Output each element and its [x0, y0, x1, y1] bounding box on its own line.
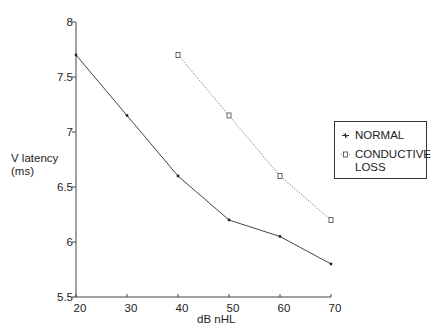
star-marker-icon [330, 263, 333, 266]
legend-label-conductive-loss: CONDUCTIVE LOSS [355, 148, 431, 174]
y-tick-label: 5.5 [57, 291, 73, 303]
square-marker-icon [341, 148, 355, 161]
y-axis-title: V latency (ms) [11, 152, 58, 178]
y-tick-label: 7 [67, 126, 73, 138]
x-tick-label: 40 [176, 302, 189, 314]
x-tick-label: 60 [278, 302, 291, 314]
y-tick-label: 7.5 [57, 71, 73, 83]
series-group [75, 53, 333, 266]
star-marker-icon [228, 219, 231, 222]
y-tick-label: 8 [67, 16, 73, 28]
series-line-normal [76, 55, 331, 264]
star-marker-icon [279, 235, 282, 238]
x-tick-label: 70 [329, 302, 342, 314]
x-axis-title: dB nHL [197, 313, 235, 326]
star-marker-icon [341, 129, 355, 142]
legend-item-normal: NORMAL [341, 129, 404, 142]
star-marker-icon [126, 114, 129, 117]
y-tick-label: 6.5 [57, 181, 73, 193]
square-marker-icon [329, 218, 333, 223]
legend-label-normal: NORMAL [355, 129, 404, 142]
x-tick-label: 20 [74, 302, 87, 314]
square-marker-icon [227, 113, 231, 118]
star-marker-icon [177, 175, 180, 178]
star-marker-icon [75, 54, 78, 57]
square-marker-icon [176, 53, 180, 58]
axes: 5.566.577.58203040506070 [57, 16, 341, 314]
legend: NORMAL CONDUCTIVE LOSS [334, 121, 427, 179]
y-tick-label: 6 [67, 236, 73, 248]
square-marker-icon [278, 174, 282, 179]
legend-item-conductive-loss: CONDUCTIVE LOSS [341, 148, 431, 174]
y-axis-title-line1: V latency [11, 152, 58, 165]
y-axis-title-line2: (ms) [11, 165, 58, 178]
x-tick-label: 30 [125, 302, 138, 314]
